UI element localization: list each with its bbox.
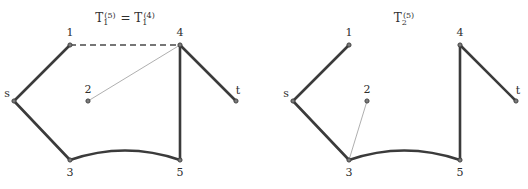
node-marker-s — [12, 99, 16, 103]
right-panel-title: T2(5) — [394, 11, 414, 27]
node-label-3: 3 — [346, 166, 353, 179]
edge-2-4 — [88, 45, 180, 101]
edge-4-t — [180, 45, 236, 101]
node-marker-4 — [178, 43, 182, 47]
edge-3-5 — [349, 151, 460, 161]
node-label-3: 3 — [67, 166, 74, 179]
node-marker-3 — [68, 158, 72, 162]
node-label-1: 1 — [67, 26, 74, 39]
right-panel-group: s12345t T2(5) — [283, 11, 521, 179]
node-label-2: 2 — [85, 83, 92, 96]
left-panel-title: T1(5) = T1(4) — [95, 11, 155, 27]
edge-s-1 — [14, 45, 70, 101]
right-panel-nodes: s12345t — [283, 26, 521, 179]
figure-root: s12345t T1(5) = T1(4) s12345t T2(5) — [0, 0, 528, 189]
node-marker-s — [291, 99, 295, 103]
node-label-s: s — [283, 87, 289, 100]
edge-s-1 — [293, 45, 349, 101]
left-panel-group: s12345t T1(5) = T1(4) — [4, 11, 241, 179]
node-label-5: 5 — [457, 166, 464, 179]
node-label-2: 2 — [364, 83, 371, 96]
node-marker-2 — [86, 99, 90, 103]
node-label-4: 4 — [177, 26, 184, 39]
node-marker-t — [234, 99, 238, 103]
node-marker-t — [514, 99, 518, 103]
edge-3-5 — [70, 151, 180, 161]
node-marker-4 — [458, 43, 462, 47]
edge-4-t — [460, 45, 516, 101]
node-label-1: 1 — [346, 26, 353, 39]
node-label-5: 5 — [177, 166, 184, 179]
node-marker-1 — [68, 43, 72, 47]
node-marker-2 — [365, 99, 369, 103]
graph-svg-canvas: s12345t T1(5) = T1(4) s12345t T2(5) — [0, 0, 528, 189]
edge-2-3 — [349, 101, 367, 160]
node-marker-5 — [178, 158, 182, 162]
left-panel-nodes: s12345t — [4, 26, 241, 179]
right-panel-edges — [293, 45, 516, 160]
node-marker-1 — [347, 43, 351, 47]
left-panel-edges — [14, 45, 236, 160]
node-label-t: t — [516, 84, 521, 97]
edge-s-3 — [14, 101, 70, 160]
node-label-4: 4 — [457, 26, 464, 39]
edge-s-3 — [293, 101, 349, 160]
node-marker-3 — [347, 158, 351, 162]
node-label-t: t — [236, 84, 241, 97]
node-marker-5 — [458, 158, 462, 162]
node-label-s: s — [4, 87, 10, 100]
